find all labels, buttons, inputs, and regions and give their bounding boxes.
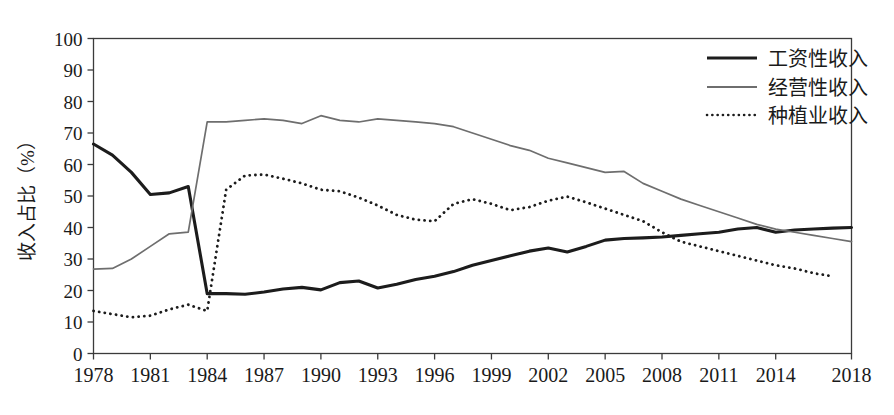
y-tick-label: 80 bbox=[64, 92, 83, 113]
chart-figure: 0102030405060708090100 19781981198419871… bbox=[0, 0, 894, 415]
x-tick-label: 1993 bbox=[358, 364, 398, 386]
plot-frame bbox=[94, 39, 852, 354]
x-tick-label: 2011 bbox=[699, 364, 738, 386]
y-tick-label: 70 bbox=[64, 123, 83, 144]
series-line-planting-income bbox=[94, 175, 833, 318]
x-axis: 1978198119841987199019931996199920022005… bbox=[74, 354, 872, 386]
legend-label-wage-income: 工资性收入 bbox=[768, 48, 868, 70]
legend: 工资性收入 经营性收入 种植业收入 bbox=[707, 48, 868, 127]
legend-label-operating-income: 经营性收入 bbox=[768, 77, 868, 99]
x-tick-label: 1984 bbox=[187, 364, 227, 386]
y-tick-label: 0 bbox=[73, 344, 83, 365]
x-tick-label: 2008 bbox=[642, 364, 682, 386]
y-tick-label: 100 bbox=[54, 29, 83, 50]
x-tick-label: 1987 bbox=[244, 364, 284, 386]
y-tick-label: 90 bbox=[64, 60, 83, 81]
y-tick-label: 20 bbox=[64, 281, 83, 302]
x-tick-label: 2005 bbox=[585, 364, 625, 386]
y-tick-label: 30 bbox=[64, 249, 83, 270]
y-axis-title: 收入占比（%） bbox=[17, 131, 38, 261]
y-tick-label: 50 bbox=[64, 186, 83, 207]
line-chart: 0102030405060708090100 19781981198419871… bbox=[0, 0, 894, 415]
y-tick-label: 40 bbox=[64, 218, 83, 239]
series-line-wage-income bbox=[94, 144, 852, 294]
x-tick-label: 1978 bbox=[74, 364, 114, 386]
x-tick-label: 2018 bbox=[832, 364, 872, 386]
legend-label-planting-income: 种植业收入 bbox=[768, 105, 868, 127]
y-tick-label: 60 bbox=[64, 155, 83, 176]
x-tick-label: 1981 bbox=[130, 364, 170, 386]
y-tick-label: 10 bbox=[64, 312, 83, 333]
x-tick-label: 1990 bbox=[301, 364, 341, 386]
y-axis: 0102030405060708090100 bbox=[54, 29, 94, 365]
series-line-operating-income bbox=[94, 116, 852, 269]
x-tick-label: 2014 bbox=[756, 364, 796, 386]
x-tick-label: 1996 bbox=[415, 364, 455, 386]
x-tick-label: 1999 bbox=[471, 364, 511, 386]
x-tick-label: 2002 bbox=[528, 364, 568, 386]
